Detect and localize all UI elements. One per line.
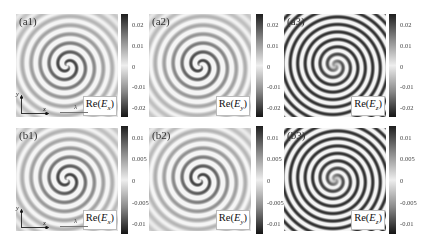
panel-label: (a1) xyxy=(19,15,37,28)
wavelength-scale-label: λ xyxy=(74,217,77,225)
field-part: Re xyxy=(354,98,366,109)
field-plot-b1: (b1)Re(Ex)yxλ xyxy=(16,128,118,231)
colorbar-tick-label: 0 xyxy=(132,177,135,184)
field-plot-a2: (a2)Re(Ey) xyxy=(149,14,251,117)
colorbar-a3: 0.020.010-0.01-0.02 xyxy=(389,14,396,117)
field-component-label: Re(Ey) xyxy=(216,210,250,230)
colorbar-tick-label: -0.005 xyxy=(400,198,417,205)
component-subscript: y xyxy=(240,218,243,226)
colorbar-gradient xyxy=(121,14,128,117)
colorbar-tick-label: 0.005 xyxy=(267,155,282,162)
field-plot-a3: (a3)Re(Ez) xyxy=(284,14,386,117)
wavelength-scale-label: λ xyxy=(74,103,77,111)
panel-label: (b1) xyxy=(19,129,37,142)
component-subscript: x xyxy=(107,104,110,112)
field-component-label: Re(Ez) xyxy=(351,96,385,116)
panel-label: (b3) xyxy=(287,129,305,142)
wavelength-scale-bar xyxy=(60,226,88,227)
y-axis-label: y xyxy=(16,90,19,97)
colorbar-tick-label: 0 xyxy=(132,62,135,69)
panel-label: (a3) xyxy=(287,15,305,28)
field-part: Re xyxy=(86,212,98,223)
colorbar-tick-label: -0.005 xyxy=(267,198,284,205)
y-axis-label: y xyxy=(16,204,19,211)
colorbar-tick-label: 0.02 xyxy=(267,21,278,28)
field-part: Re xyxy=(86,98,98,109)
colorbar-tick-label: 0.01 xyxy=(132,133,143,140)
component-subscript: x xyxy=(107,218,110,226)
x-axis-label: x xyxy=(43,105,46,112)
component-subscript: y xyxy=(240,104,243,112)
colorbar-tick-label: 0 xyxy=(400,177,403,184)
colorbar-tick-label: 0.01 xyxy=(267,41,278,48)
coordinate-axes-icon: yx xyxy=(19,207,51,229)
colorbar-tick-label: -0.005 xyxy=(132,198,149,205)
colorbar-tick-label: 0.02 xyxy=(400,21,411,28)
field-part: Re xyxy=(219,212,231,223)
colorbar-tick-label: -0.01 xyxy=(132,220,146,227)
colorbar-tick-label: -0.01 xyxy=(267,220,281,227)
x-axis-label: x xyxy=(43,219,46,226)
component-subscript: z xyxy=(376,218,379,226)
field-plot-b2: (b2)Re(Ey) xyxy=(149,128,251,231)
colorbar-tick-label: -0.01 xyxy=(132,83,146,90)
coordinate-axes-icon: yx xyxy=(19,93,51,115)
colorbar-gradient xyxy=(389,126,396,234)
colorbar-b1: 0.010.0050-0.005-0.01 xyxy=(121,126,128,234)
colorbar-gradient xyxy=(256,126,263,234)
colorbar-gradient xyxy=(121,126,128,234)
field-part: Re xyxy=(219,98,231,109)
field-component-label: Re(Ey) xyxy=(216,96,250,116)
colorbar-tick-label: -0.01 xyxy=(400,83,414,90)
colorbar-tick-label: 0 xyxy=(400,62,403,69)
wavelength-scale-bar xyxy=(60,112,88,113)
panel-label: (a2) xyxy=(152,15,170,28)
colorbar-tick-label: 0.005 xyxy=(400,155,415,162)
colorbar-tick-label: -0.02 xyxy=(132,103,146,110)
colorbar-tick-label: -0.02 xyxy=(267,103,281,110)
colorbar-tick-label: 0 xyxy=(267,177,270,184)
colorbar-tick-label: 0.01 xyxy=(267,133,278,140)
colorbar-tick-label: 0.01 xyxy=(400,41,411,48)
field-plot-b3: (b3)Re(Ez) xyxy=(284,128,386,231)
colorbar-tick-label: -0.01 xyxy=(267,83,281,90)
colorbar-a1: 0.020.010-0.01-0.02 xyxy=(121,14,128,117)
panel-label: (b2) xyxy=(152,129,170,142)
colorbar-tick-label: 0.02 xyxy=(132,21,143,28)
component-subscript: z xyxy=(376,104,379,112)
colorbar-a2: 0.020.010-0.01-0.02 xyxy=(256,14,263,117)
field-part: Re xyxy=(354,212,366,223)
field-plot-a1: (a1)Re(Ex)yxλ xyxy=(16,14,118,117)
colorbar-tick-label: 0 xyxy=(267,62,270,69)
colorbar-tick-label: 0.01 xyxy=(400,133,411,140)
colorbar-b2: 0.010.0050-0.005-0.01 xyxy=(256,126,263,234)
field-component-label: Re(Ez) xyxy=(351,210,385,230)
colorbar-gradient xyxy=(256,14,263,117)
colorbar-gradient xyxy=(389,14,396,117)
colorbar-b3: 0.010.0050-0.005-0.01 xyxy=(389,126,396,234)
colorbar-tick-label: 0.01 xyxy=(132,41,143,48)
colorbar-tick-label: -0.02 xyxy=(400,103,414,110)
colorbar-tick-label: -0.01 xyxy=(400,220,414,227)
colorbar-tick-label: 0.005 xyxy=(132,155,147,162)
